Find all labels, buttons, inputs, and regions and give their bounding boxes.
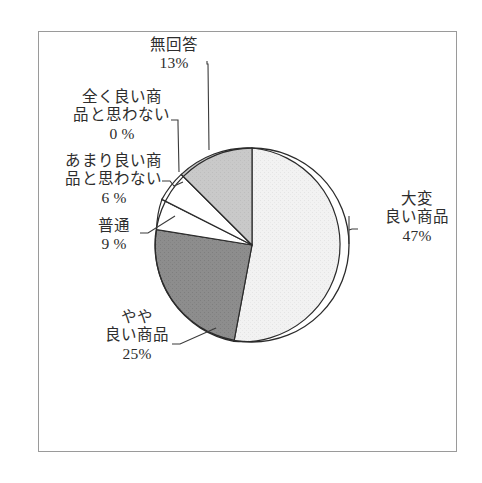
- pie-label-mukaito-line-1: 無回答: [110, 36, 238, 54]
- pie-label-mattaku-value: 0 %: [36, 125, 208, 143]
- pie-label-mattaku-line-2: 品と思わない: [36, 106, 208, 124]
- pie-label-mattaku: 全く良い商 品と思わない 0 %: [36, 88, 208, 143]
- pie-label-yaya-line-1: やや: [78, 308, 196, 326]
- leader-line-taihen: [349, 229, 358, 230]
- pie-label-yaya-line-2: 良い商品: [78, 326, 196, 344]
- pie-label-taihen-line-1: 大変: [358, 190, 476, 208]
- pie-label-amari-line-2: 品と思わない: [28, 170, 200, 188]
- pie-label-amari-value: 6 %: [28, 189, 200, 207]
- pie-label-yaya: やや 良い商品 25%: [78, 308, 196, 363]
- pie-label-taihen-value: 47%: [358, 227, 476, 245]
- pie-label-mukaito: 無回答 13%: [110, 36, 238, 73]
- pie-label-yaya-value: 25%: [78, 345, 196, 363]
- pie-label-taihen-line-2: 良い商品: [358, 208, 476, 226]
- pie-label-futsuu-value: 9 %: [66, 235, 162, 253]
- chart-plot-area: 無回答 13% 全く良い商 品と思わない 0 % あまり良い商 品と思わない 6…: [0, 0, 482, 483]
- pie-label-amari-line-1: あまり良い商: [28, 152, 200, 170]
- pie-label-mukaito-value: 13%: [110, 54, 238, 72]
- pie-label-futsuu: 普通 9 %: [66, 217, 162, 254]
- pie-label-futsuu-line-1: 普通: [66, 217, 162, 235]
- pie-label-taihen: 大変 良い商品 47%: [358, 190, 476, 245]
- pie-chart-figure: 無回答 13% 全く良い商 品と思わない 0 % あまり良い商 品と思わない 6…: [0, 0, 482, 483]
- pie-label-amari: あまり良い商 品と思わない 6 %: [28, 152, 200, 207]
- pie-label-mattaku-line-1: 全く良い商: [36, 88, 208, 106]
